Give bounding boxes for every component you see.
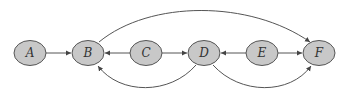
node-e: E — [246, 41, 278, 66]
node-a: A — [14, 41, 46, 66]
node-label: B — [83, 46, 93, 60]
node-label: F — [314, 46, 324, 60]
node-d: D — [188, 41, 220, 66]
edge-d-f — [213, 65, 311, 88]
edge-b-f — [99, 11, 310, 43]
node-label: E — [257, 46, 267, 60]
node-c: C — [130, 41, 162, 66]
node-b: B — [72, 41, 104, 66]
graph-svg: ABCDEF — [0, 0, 349, 93]
node-label: C — [141, 46, 150, 60]
node-label: A — [25, 46, 35, 60]
graph-diagram: ABCDEF — [0, 0, 349, 93]
node-label: D — [198, 46, 209, 60]
edge-d-b — [98, 65, 196, 88]
node-f: F — [303, 41, 335, 66]
